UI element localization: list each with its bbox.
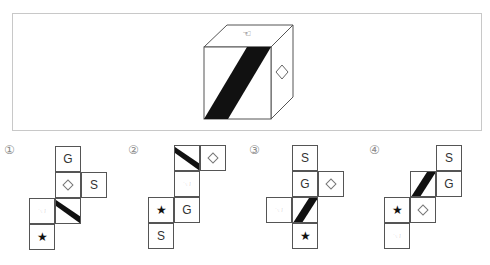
option-4-net-cell xyxy=(410,197,436,223)
pointing-hand-icon: ☜ xyxy=(275,205,283,215)
option-1-net-cell xyxy=(55,198,81,224)
diamond-icon xyxy=(325,178,336,189)
letter-g-text: G xyxy=(444,177,453,191)
letter-g-text: G xyxy=(63,152,72,166)
option-3-net-cell: G xyxy=(292,171,318,197)
diamond-icon xyxy=(62,179,73,190)
option-4-net-cell xyxy=(410,171,436,197)
letter-s-text: S xyxy=(445,151,453,165)
diamond-icon xyxy=(417,204,428,215)
cube-figure: ☜ xyxy=(0,0,490,140)
pointing-hand-icon: ☜ xyxy=(38,206,46,216)
option-2-net-cell: S xyxy=(148,223,174,249)
option-2-label[interactable]: ② xyxy=(128,143,139,157)
diagonal-stripe-icon xyxy=(175,146,200,171)
letter-s-text: S xyxy=(157,229,165,243)
diagonal-stripe-icon xyxy=(56,199,81,224)
diagonal-stripe-icon xyxy=(411,172,436,197)
letter-g-text: G xyxy=(300,177,309,191)
option-4-net-cell: S xyxy=(436,145,462,171)
option-2-net-cell: ★ xyxy=(148,197,174,223)
option-1-net-cell: ★ xyxy=(29,224,55,250)
letter-s-text: S xyxy=(301,151,309,165)
letter-g-text: G xyxy=(182,203,191,217)
option-4-label[interactable]: ④ xyxy=(369,143,380,157)
option-1-net-cell: ☜ xyxy=(29,198,55,224)
star-icon: ★ xyxy=(156,203,167,217)
diamond-icon xyxy=(207,152,218,163)
pointing-hand-icon: ☜ xyxy=(183,179,191,189)
pointing-hand-icon: ☜ xyxy=(393,231,401,241)
letter-s-text: S xyxy=(90,178,98,192)
star-icon: ★ xyxy=(392,203,403,217)
option-4-net-cell: ☜ xyxy=(384,223,410,249)
option-3-net-cell xyxy=(292,197,318,223)
option-3-net-cell: ☜ xyxy=(266,197,292,223)
diagonal-stripe-icon xyxy=(293,198,318,223)
star-icon: ★ xyxy=(37,230,48,244)
option-1-net-cell: S xyxy=(81,172,107,198)
option-3-net-cell: S xyxy=(292,145,318,171)
option-1-net-cell xyxy=(55,172,81,198)
option-3-label[interactable]: ③ xyxy=(249,143,260,157)
option-4-net-cell: G xyxy=(436,171,462,197)
option-4-net-cell: ★ xyxy=(384,197,410,223)
option-2-net-cell: ☜ xyxy=(174,171,200,197)
option-1-label[interactable]: ① xyxy=(4,143,15,157)
option-1-net-cell: G xyxy=(55,146,81,172)
option-2-net-cell xyxy=(200,145,226,171)
star-icon: ★ xyxy=(300,229,311,243)
option-3-net-cell xyxy=(318,171,344,197)
pointing-hand-icon: ☜ xyxy=(243,28,252,39)
option-3-net-cell: ★ xyxy=(292,223,318,249)
option-2-net-cell: G xyxy=(174,197,200,223)
puzzle-stage: ☜ ①GS☜★②☜★GS③SG☜★④SG★☜ xyxy=(0,0,490,265)
option-2-net-cell xyxy=(174,145,200,171)
